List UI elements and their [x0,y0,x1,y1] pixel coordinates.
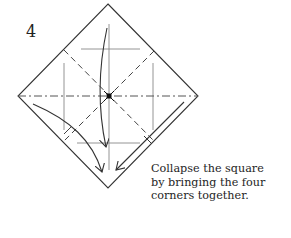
caption-line: by bringing the four [151,176,291,190]
caption-line: corners together. [151,189,291,203]
caption-line: Collapse the square [151,162,291,176]
instruction-caption: Collapse the square by bringing the four… [151,162,291,203]
arrow-right-corner-icon [116,102,184,170]
arrow-left-tick [64,126,72,134]
